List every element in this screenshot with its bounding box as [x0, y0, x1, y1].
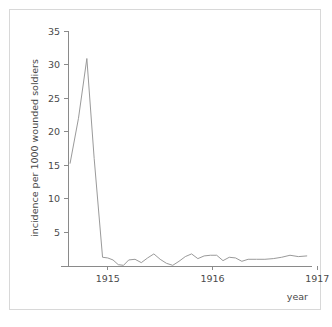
- y-axis-label: incidence per 1000 wounded soldiers: [29, 59, 40, 237]
- y-tick-label: 35: [48, 26, 60, 37]
- y-axis: 5101520253035: [48, 26, 68, 267]
- y-tick-label: 20: [48, 126, 60, 137]
- data-series-incidence: [70, 59, 307, 266]
- x-tick-label: 1917: [305, 273, 329, 284]
- chart-figure: 5101520253035 191519161917 incidence per…: [0, 0, 332, 327]
- y-tick-label: 15: [48, 160, 60, 171]
- y-tick-label: 30: [48, 59, 60, 70]
- x-tick-label: 1916: [200, 273, 224, 284]
- x-axis-label: year: [287, 291, 308, 302]
- x-tick-label: 1915: [96, 273, 120, 284]
- x-axis: 191519161917: [61, 266, 329, 284]
- y-tick-label: 10: [48, 193, 60, 204]
- y-tick-label: 25: [48, 93, 60, 104]
- y-tick-label: 5: [54, 227, 60, 238]
- line-chart-canvas: 5101520253035 191519161917 incidence per…: [0, 0, 332, 327]
